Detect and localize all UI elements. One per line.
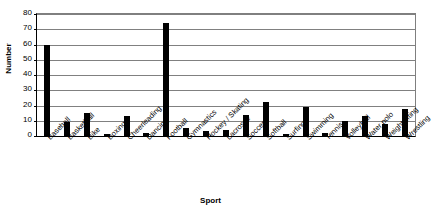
bar-slot — [335, 14, 355, 136]
y-axis-tick-label: 0 — [17, 131, 32, 139]
y-axis-tick-label: 10 — [17, 116, 32, 124]
y-axis-tick-label: 50 — [17, 55, 32, 63]
y-axis-tick-label: 20 — [17, 101, 32, 109]
y-axis-tick-labels: 80706050403020100 — [17, 9, 32, 136]
bar-slot — [117, 14, 137, 136]
y-axis-tick-label: 30 — [17, 85, 32, 93]
y-axis-tick-label: 60 — [17, 40, 32, 48]
x-axis-tick-labels: BaseballBasketballBikeBoxingCheerleading… — [36, 136, 416, 196]
x-axis-title: Sport — [0, 196, 421, 205]
bar-slot — [276, 14, 296, 136]
y-axis-tick-label: 40 — [17, 70, 32, 78]
y-axis-tick-label: 70 — [17, 24, 32, 32]
y-axis-tick-label: 80 — [17, 9, 32, 17]
bar-slot — [296, 14, 316, 136]
y-axis-title: Number — [4, 29, 13, 89]
bar-slot — [256, 14, 276, 136]
bar-slot — [37, 14, 57, 136]
bar[interactable] — [44, 45, 50, 137]
bar-slot — [176, 14, 196, 136]
bar-slot — [97, 14, 117, 136]
